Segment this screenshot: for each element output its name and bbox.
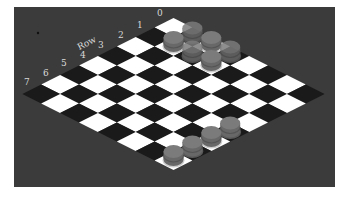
checker-piece[interactable] xyxy=(163,145,185,168)
checker-piece[interactable] xyxy=(181,41,203,64)
row-label-3: 3 xyxy=(98,41,104,50)
marker-dot xyxy=(37,32,39,34)
row-label-5: 5 xyxy=(61,59,67,68)
checker-piece[interactable] xyxy=(200,50,222,73)
row-label-2: 2 xyxy=(118,31,124,40)
game-scene xyxy=(0,0,347,198)
checker-piece[interactable] xyxy=(200,126,222,149)
row-label-4: 4 xyxy=(80,51,86,60)
row-label-0: 0 xyxy=(157,9,163,18)
checker-piece[interactable] xyxy=(181,136,203,159)
checker-piece[interactable] xyxy=(219,117,241,140)
row-label-6: 6 xyxy=(43,69,49,78)
checker-piece[interactable] xyxy=(163,31,185,54)
checker-piece[interactable] xyxy=(219,41,241,64)
row-label-7: 7 xyxy=(24,78,30,87)
row-label-1: 1 xyxy=(137,21,143,30)
